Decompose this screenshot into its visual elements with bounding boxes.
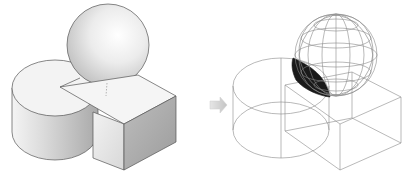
shaded-solid-model xyxy=(12,4,176,170)
wireframe-model xyxy=(233,3,401,170)
diagram-canvas xyxy=(0,0,411,180)
wireframe-sphere xyxy=(286,3,386,108)
transform-arrow-icon xyxy=(210,97,227,113)
shaded-sphere xyxy=(67,4,149,86)
